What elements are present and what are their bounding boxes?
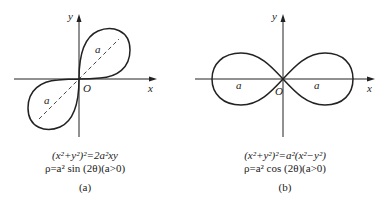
equation-cartesian: (x²+y²)²=a²(x²−y²) <box>220 149 350 162</box>
equation-polar: ρ=a² sin (2θ)(a>0) <box>20 162 150 175</box>
figure-sub-label: (b) <box>220 181 350 194</box>
figure-sub-label: (a) <box>20 181 150 194</box>
loop-label-upper: a <box>95 43 101 55</box>
y-axis-arrow-icon <box>77 14 82 22</box>
axis-x-label: x <box>147 82 153 94</box>
axis-y-label: y <box>67 10 73 22</box>
figure-a-lemniscate: y x O a a <box>0 0 190 140</box>
loop-label-right: a <box>314 79 320 91</box>
figure-b-lemniscate: y x O a a <box>190 0 381 140</box>
caption-a: (x²+y²)²=2a²xy ρ=a² sin (2θ)(a>0) (a) <box>20 149 150 194</box>
y-axis-arrow-icon <box>281 14 286 22</box>
equation-cartesian: (x²+y²)²=2a²xy <box>20 149 150 162</box>
loop-label-lower: a <box>44 94 50 106</box>
equation-polar: ρ=a² cos (2θ)(a>0) <box>220 162 350 175</box>
x-axis-arrow-icon <box>149 77 157 82</box>
x-axis-arrow-icon <box>367 77 375 82</box>
loop-label-left: a <box>236 79 242 91</box>
axis-x-label: x <box>366 82 372 94</box>
caption-b: (x²+y²)²=a²(x²−y²) ρ=a² cos (2θ)(a>0) (b… <box>220 149 350 194</box>
origin-label: O <box>83 82 91 94</box>
origin-label: O <box>275 85 283 97</box>
axis-y-label: y <box>271 10 277 22</box>
